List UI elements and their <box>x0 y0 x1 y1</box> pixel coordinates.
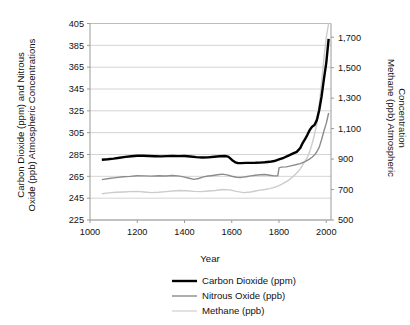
y-left-tick-label: 365 <box>69 62 84 72</box>
series-line-nitrous-oxide-ppb <box>102 113 329 180</box>
legend: Carbon Dioxide (ppm)Nitrous Oxide (ppb)M… <box>172 275 296 316</box>
series-group <box>102 24 329 194</box>
y-right-tick-label: 1,100 <box>338 124 361 134</box>
series-line-carbon-dioxide-ppm <box>102 39 329 163</box>
y-right-axis-title: Methane (ppb) Atmospheric Concentration <box>386 59 408 177</box>
y-left-tick-label: 245 <box>69 193 84 203</box>
x-tick-label: 1200 <box>127 227 147 237</box>
y-left-tick-label: 405 <box>69 19 84 29</box>
y-left-tick-label: 265 <box>69 172 84 182</box>
y-left-tick-label: 285 <box>69 150 84 160</box>
y-right-axis-title-line2: Concentration <box>397 88 408 148</box>
y-left-tick-label: 305 <box>69 128 84 138</box>
y-left-tick-label: 325 <box>69 106 84 116</box>
y-right-tick-label: 1,700 <box>338 33 361 43</box>
y-right-tick-label: 900 <box>338 154 353 164</box>
y-left-axis-title-line2: Oxide (ppb) Atmospheric Concentrations <box>26 38 37 211</box>
x-tick-label: 2000 <box>316 227 336 237</box>
y-right-tick-label: 500 <box>338 215 353 225</box>
x-tick-label: 1400 <box>174 227 194 237</box>
y-right-tick-label: 1,500 <box>338 63 361 73</box>
y-right-axis-title-line1: Methane (ppb) Atmospheric <box>386 59 397 177</box>
y-left-axis-title: Carbon Dioxide (ppm) and Nitrous Oxide (… <box>15 38 37 211</box>
x-tick-label: 1000 <box>80 227 100 237</box>
legend-label-2: Methane (ppb) <box>202 305 264 316</box>
y-left-tick-label: 385 <box>69 41 84 51</box>
y-right-tick-label: 1,300 <box>338 93 361 103</box>
chart-container: 225245265285305325345365385405 500700900… <box>0 0 410 325</box>
y-left-axis-title-line1: Carbon Dioxide (ppm) and Nitrous <box>15 52 26 198</box>
y-left-tick-label: 225 <box>69 215 84 225</box>
y-right-tick-labels: 5007009001,1001,3001,5001,700 <box>338 33 361 226</box>
x-tick-labels: 100012001400160018002000 <box>80 227 337 237</box>
y-right-tick-label: 700 <box>338 185 353 195</box>
legend-label-0: Carbon Dioxide (ppm) <box>202 275 296 286</box>
tick-marks-group <box>87 24 334 224</box>
x-tick-label: 1600 <box>222 227 242 237</box>
x-axis-title: Year <box>200 253 220 264</box>
atmospheric-concentrations-line-chart: 225245265285305325345365385405 500700900… <box>0 0 410 325</box>
y-left-tick-labels: 225245265285305325345365385405 <box>69 19 84 226</box>
series-line-methane-ppb <box>102 24 329 194</box>
legend-label-1: Nitrous Oxide (ppb) <box>202 290 285 301</box>
y-left-tick-label: 345 <box>69 84 84 94</box>
x-tick-label: 1800 <box>269 227 289 237</box>
